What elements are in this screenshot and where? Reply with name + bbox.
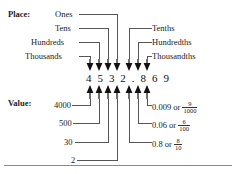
value-decimal-0009: 0.009	[152, 102, 171, 112]
connector-2-h	[77, 160, 117, 161]
place-value-diagram: Place: Value: Ones Tens Hundreds Thousan…	[0, 0, 236, 174]
connector-08-h	[129, 142, 152, 143]
connector-hundredths-h	[138, 42, 152, 43]
connector-tenths-h	[129, 28, 152, 29]
connector-006-h	[138, 123, 152, 124]
connector-tens-h	[79, 28, 108, 29]
connector-006-v	[138, 99, 139, 124]
connector-hundreds-h	[79, 42, 99, 43]
fraction-6-100: 6 100	[178, 119, 190, 133]
place-label-hundreds: Hundreds	[31, 38, 64, 47]
value-label-30: 30	[64, 138, 73, 147]
place-label-tens: Tens	[55, 24, 71, 33]
up-arrow-icon	[144, 85, 151, 99]
fraction-denominator: 1000	[182, 107, 197, 115]
down-arrow-group	[87, 59, 151, 71]
connector-08-v	[129, 99, 130, 143]
value-decimal-006: 0.06	[152, 120, 167, 130]
up-arrow-icon	[135, 85, 142, 99]
up-arrow-icon	[126, 85, 133, 99]
place-label-hundredths: Hundredths	[152, 38, 192, 47]
number-display: 4 5 3 2 . 8 6 9	[86, 72, 171, 84]
connector-thousands-h	[79, 56, 90, 57]
down-arrow-icon	[135, 59, 142, 71]
connector-30-v	[108, 99, 109, 143]
connector-thousandths-v	[147, 56, 148, 59]
conjunction-or: or	[169, 120, 176, 130]
place-label-ones: Ones	[55, 10, 72, 19]
place-label-thousandths: Thousandths	[152, 52, 195, 61]
value-decimal-08: 0.8	[152, 139, 163, 149]
place-label-thousands: Thousands	[25, 52, 62, 61]
up-arrow-icon	[105, 85, 112, 99]
up-arrow-icon	[114, 85, 121, 99]
connector-hundredths-v	[138, 42, 139, 59]
connector-hundreds-v	[99, 42, 100, 59]
down-arrow-icon	[87, 59, 94, 71]
fraction-8-10: 8 10	[174, 138, 183, 152]
value-label-2: 2	[71, 156, 75, 165]
connector-500-h	[73, 123, 99, 124]
value-label-thousandths: 0.009 or 9 1000	[152, 101, 197, 115]
conjunction-or: or	[173, 102, 180, 112]
connector-tenths-v	[129, 28, 130, 59]
connector-4000-v	[90, 99, 91, 106]
value-label-4000: 4000	[54, 101, 71, 110]
down-arrow-icon	[114, 59, 121, 71]
connector-ones-v	[117, 14, 118, 59]
down-arrow-icon	[144, 59, 151, 71]
place-row-label: Place:	[8, 10, 30, 19]
value-label-tenths: 0.8 or 8 10	[152, 138, 182, 152]
connector-4000-h	[72, 105, 90, 106]
fraction-9-1000: 9 1000	[182, 101, 197, 115]
fraction-denominator: 10	[174, 144, 183, 152]
down-arrow-icon	[126, 59, 133, 71]
up-arrow-group	[87, 85, 151, 99]
fraction-denominator: 100	[178, 125, 190, 133]
value-row-label: Value:	[8, 99, 31, 108]
place-label-tenths: Tenths	[152, 24, 175, 33]
value-label-500: 500	[59, 119, 72, 128]
value-label-hundredths: 0.06 or 6 100	[152, 119, 190, 133]
arrow-layer	[0, 0, 236, 174]
up-arrow-icon	[96, 85, 103, 99]
connector-tens-v	[108, 28, 109, 59]
down-arrow-icon	[96, 59, 103, 71]
connector-30-h	[75, 142, 108, 143]
connector-0009-h	[147, 105, 152, 106]
connector-500-v	[99, 99, 100, 124]
connector-thousands-v	[90, 56, 91, 59]
bottom-divider	[4, 165, 232, 166]
conjunction-or: or	[165, 139, 172, 149]
down-arrow-icon	[105, 59, 112, 71]
connector-ones-h	[79, 14, 117, 15]
connector-2-v	[117, 99, 118, 161]
up-arrow-icon	[87, 85, 94, 99]
